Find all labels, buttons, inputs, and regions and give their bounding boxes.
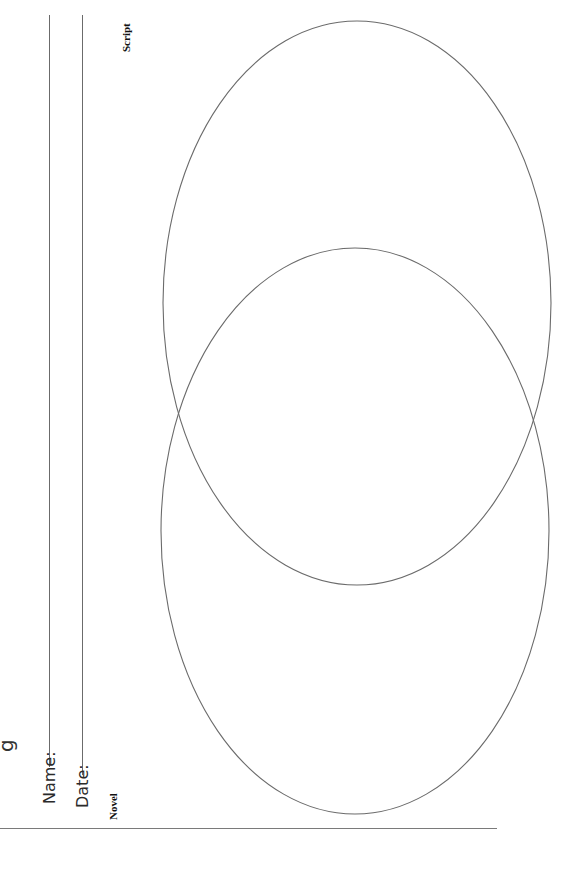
script-circle — [163, 21, 551, 585]
venn-diagram — [0, 0, 572, 869]
novel-circle — [161, 248, 549, 814]
bottom-rule — [0, 828, 497, 829]
